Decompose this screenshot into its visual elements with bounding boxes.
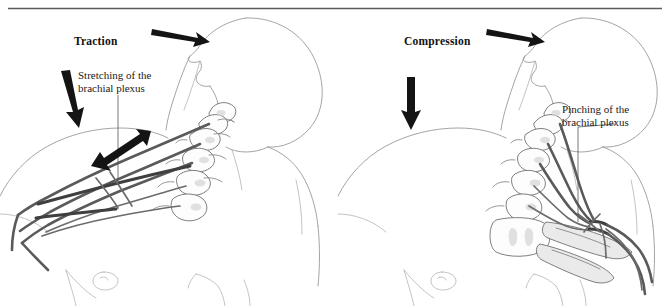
compression-panel-title: Compression: [404, 35, 471, 48]
traction-annotation-line1: Stretching of the: [78, 69, 151, 81]
compression-annotation-line2: brachial plexus: [562, 116, 629, 128]
brachial-plexus-figure: Traction Stretching of the brachial plex…: [0, 0, 670, 306]
traction-stretch-direction-arrow: [91, 129, 151, 171]
compression-body-outline: [338, 18, 657, 306]
traction-cervical-vertebrae: [151, 103, 236, 221]
panel-traction: Traction Stretching of the brachial plex…: [0, 18, 322, 306]
compression-head-direction-arrow: [486, 29, 545, 47]
panel-compression: Compression Pinching of the brachial ple…: [338, 18, 657, 306]
traction-head-direction-arrow: [151, 29, 210, 47]
figure-canvas: Traction Stretching of the brachial plex…: [0, 0, 670, 306]
compression-annotation-line1: Pinching of the: [562, 103, 629, 115]
traction-annotation-line2: brachial plexus: [78, 82, 145, 94]
compression-shoulder-elevation-arrow: [401, 77, 421, 130]
traction-panel-title: Traction: [74, 35, 118, 47]
